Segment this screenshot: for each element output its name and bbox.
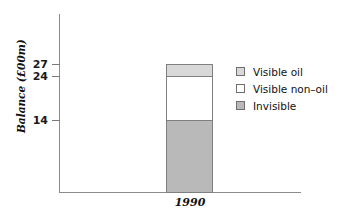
y-tick-mark-14 bbox=[52, 120, 60, 121]
legend-label-visible-non-oil: Visible non–oil bbox=[253, 83, 328, 95]
bar-1990 bbox=[166, 64, 213, 193]
bar-segment-invisible bbox=[166, 120, 213, 193]
bar-segment-visible-non-oil bbox=[166, 76, 213, 121]
y-tick-label-14: 14 bbox=[33, 114, 48, 127]
y-axis-line bbox=[59, 14, 60, 193]
legend-swatch-visible-oil bbox=[236, 67, 245, 76]
chart-canvas: Balance (£00m) 27 24 14 1990 Visible oil… bbox=[0, 0, 350, 215]
legend-item-visible-non-oil: Visible non–oil bbox=[236, 80, 328, 97]
legend-swatch-visible-non-oil bbox=[236, 84, 245, 93]
legend-item-invisible: Invisible bbox=[236, 97, 328, 114]
y-tick-mark-24 bbox=[52, 76, 60, 77]
legend-label-invisible: Invisible bbox=[253, 100, 296, 112]
x-tick-label-1990: 1990 bbox=[150, 196, 230, 209]
y-tick-label-24: 24 bbox=[33, 70, 48, 83]
chart-legend: Visible oil Visible non–oil Invisible bbox=[236, 63, 328, 114]
legend-item-visible-oil: Visible oil bbox=[236, 63, 328, 80]
y-axis-title: Balance (£00m) bbox=[14, 13, 28, 133]
legend-label-visible-oil: Visible oil bbox=[253, 66, 303, 78]
legend-swatch-invisible bbox=[236, 101, 245, 110]
y-tick-mark-27 bbox=[52, 64, 60, 65]
